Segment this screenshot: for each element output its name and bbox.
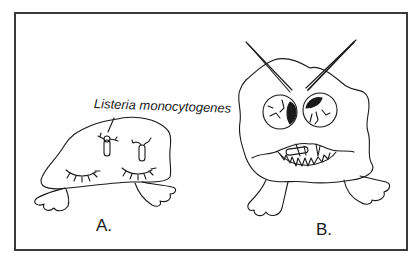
creature-a-body bbox=[41, 117, 171, 189]
creature-a bbox=[35, 117, 176, 211]
creature-b bbox=[239, 40, 390, 216]
creature-b-body bbox=[239, 59, 373, 183]
panel-label-b: B. bbox=[316, 220, 332, 240]
creature-b-mouth bbox=[252, 143, 354, 166]
creature-a-left-foot bbox=[35, 188, 69, 211]
creature-a-right-foot bbox=[135, 182, 176, 206]
creature-a-closed-eyes bbox=[66, 168, 156, 182]
panel-label-a: A. bbox=[96, 216, 112, 236]
creature-b-eyes bbox=[263, 93, 337, 129]
creature-b-left-foot bbox=[248, 180, 288, 216]
bacteria-rods bbox=[98, 133, 151, 161]
